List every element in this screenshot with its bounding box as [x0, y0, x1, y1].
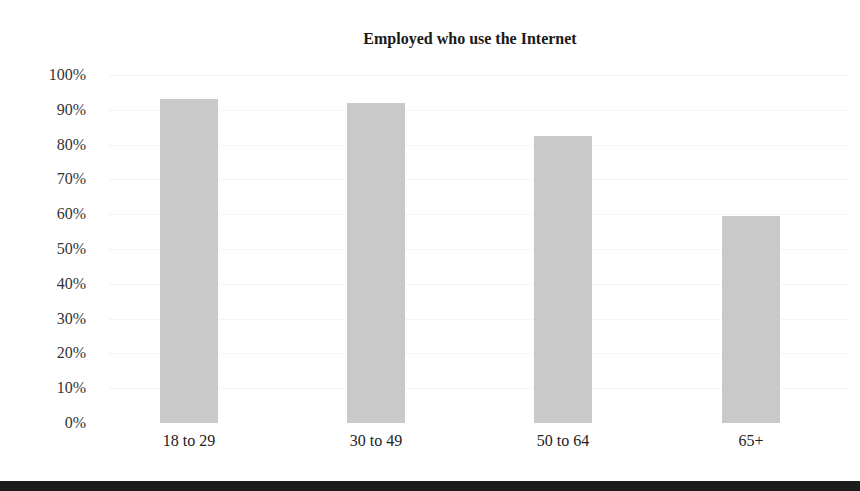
y-tick-label: 20% — [0, 344, 86, 362]
bottom-rule — [0, 481, 860, 491]
gridline — [110, 179, 850, 180]
x-tick-label: 30 to 49 — [316, 432, 436, 450]
x-tick-label: 18 to 29 — [129, 432, 249, 450]
bar — [722, 216, 780, 423]
x-tick-label: 65+ — [691, 432, 811, 450]
plot-area — [110, 75, 850, 423]
bar — [534, 136, 592, 423]
y-tick-label: 40% — [0, 275, 86, 293]
gridline — [110, 75, 850, 76]
gridline — [110, 145, 850, 146]
y-tick-label: 80% — [0, 136, 86, 154]
y-tick-label: 30% — [0, 310, 86, 328]
y-tick-label: 90% — [0, 101, 86, 119]
y-tick-label: 70% — [0, 170, 86, 188]
y-tick-label: 0% — [0, 414, 86, 432]
bar — [160, 99, 218, 423]
x-tick-label: 50 to 64 — [503, 432, 623, 450]
bar — [347, 103, 405, 423]
y-tick-label: 100% — [0, 66, 86, 84]
chart-title: Employed who use the Internet — [0, 30, 860, 48]
y-tick-label: 60% — [0, 205, 86, 223]
gridline — [110, 110, 850, 111]
y-tick-label: 10% — [0, 379, 86, 397]
y-tick-label: 50% — [0, 240, 86, 258]
